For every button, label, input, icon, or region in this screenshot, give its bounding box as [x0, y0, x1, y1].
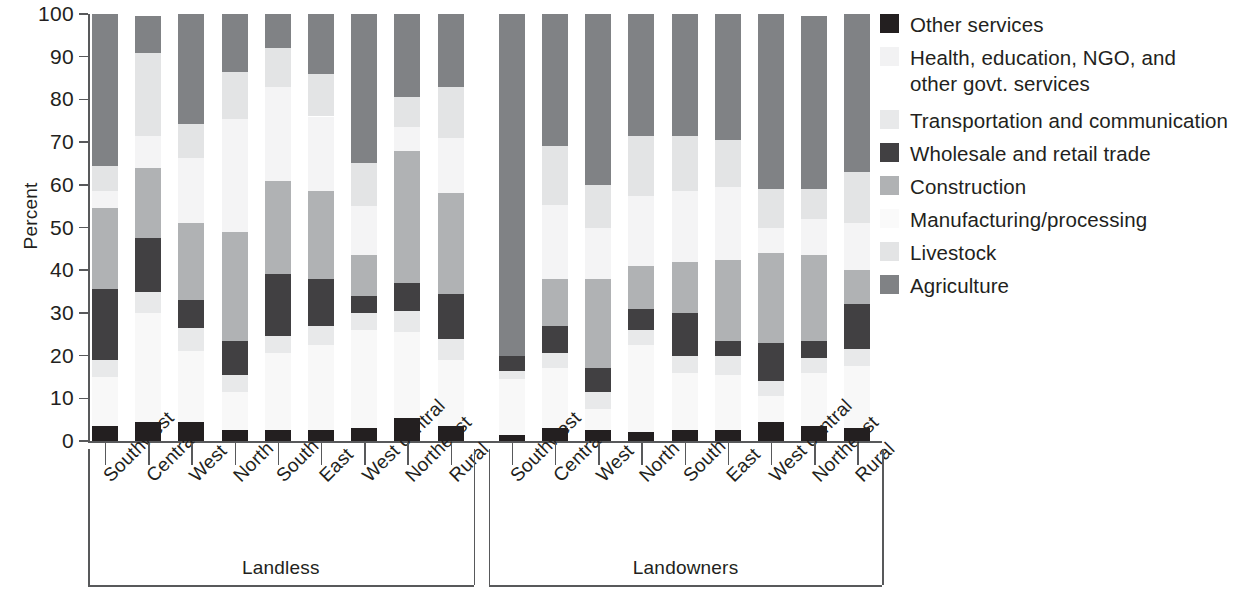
bar-segment[interactable] — [178, 223, 204, 300]
bar-column[interactable] — [351, 14, 377, 441]
bar-segment[interactable] — [628, 266, 654, 309]
bar-segment[interactable] — [178, 300, 204, 328]
bar-segment[interactable] — [715, 14, 741, 140]
bar-segment[interactable] — [178, 158, 204, 223]
bar-column[interactable] — [542, 14, 568, 441]
bar-segment[interactable] — [265, 14, 291, 48]
bar-segment[interactable] — [499, 371, 525, 380]
bar-column[interactable] — [499, 14, 525, 441]
bar-segment[interactable] — [715, 341, 741, 356]
bar-segment[interactable] — [438, 87, 464, 138]
bar-segment[interactable] — [542, 326, 568, 354]
bar-segment[interactable] — [92, 426, 118, 441]
bar-segment[interactable] — [758, 14, 784, 189]
bar-segment[interactable] — [844, 270, 870, 304]
bar-segment[interactable] — [628, 136, 654, 196]
bar-segment[interactable] — [628, 14, 654, 136]
bar-segment[interactable] — [542, 353, 568, 368]
bar-segment[interactable] — [585, 368, 611, 391]
bar-segment[interactable] — [499, 14, 525, 356]
legend-item[interactable]: Agriculture — [880, 273, 1009, 299]
bar-column[interactable] — [222, 14, 248, 441]
bar-segment[interactable] — [715, 375, 741, 431]
bar-segment[interactable] — [542, 14, 568, 146]
bar-segment[interactable] — [801, 358, 827, 373]
bar-segment[interactable] — [135, 313, 161, 422]
legend-item[interactable]: Construction — [880, 174, 1026, 200]
bar-segment[interactable] — [394, 151, 420, 283]
bar-column[interactable] — [585, 14, 611, 441]
bar-segment[interactable] — [135, 238, 161, 291]
bar-segment[interactable] — [178, 124, 204, 158]
bar-segment[interactable] — [265, 181, 291, 275]
bar-segment[interactable] — [394, 332, 420, 417]
bar-segment[interactable] — [585, 14, 611, 185]
bar-segment[interactable] — [628, 196, 654, 266]
bar-segment[interactable] — [758, 422, 784, 441]
bar-segment[interactable] — [715, 140, 741, 187]
bar-column[interactable] — [265, 14, 291, 441]
legend-item[interactable]: Health, education, NGO, and other govt. … — [880, 45, 1176, 97]
bar-segment[interactable] — [801, 255, 827, 340]
bar-segment[interactable] — [222, 119, 248, 232]
bar-segment[interactable] — [178, 351, 204, 421]
bar-segment[interactable] — [715, 356, 741, 375]
bar-segment[interactable] — [542, 146, 568, 206]
bar-column[interactable] — [308, 14, 334, 441]
bar-segment[interactable] — [222, 430, 248, 441]
bar-segment[interactable] — [308, 191, 334, 279]
bar-segment[interactable] — [222, 341, 248, 375]
bar-segment[interactable] — [801, 189, 827, 219]
bar-segment[interactable] — [844, 304, 870, 349]
bar-segment[interactable] — [585, 228, 611, 279]
bar-segment[interactable] — [222, 392, 248, 430]
bar-segment[interactable] — [672, 262, 698, 313]
bar-segment[interactable] — [672, 136, 698, 192]
bar-segment[interactable] — [438, 14, 464, 87]
bar-segment[interactable] — [585, 409, 611, 430]
legend-item[interactable]: Transportation and communication — [880, 108, 1228, 134]
bar-segment[interactable] — [135, 53, 161, 135]
bar-segment[interactable] — [628, 345, 654, 433]
bar-segment[interactable] — [178, 328, 204, 351]
bar-segment[interactable] — [628, 309, 654, 330]
bar-segment[interactable] — [844, 172, 870, 223]
bar-segment[interactable] — [801, 341, 827, 358]
bar-segment[interactable] — [351, 255, 377, 296]
bar-segment[interactable] — [265, 353, 291, 430]
bar-segment[interactable] — [135, 16, 161, 53]
bar-segment[interactable] — [222, 375, 248, 392]
bar-segment[interactable] — [499, 379, 525, 435]
bar-column[interactable] — [672, 14, 698, 441]
bar-segment[interactable] — [715, 187, 741, 260]
bar-segment[interactable] — [542, 205, 568, 278]
bar-segment[interactable] — [628, 432, 654, 441]
bar-segment[interactable] — [672, 373, 698, 431]
bar-segment[interactable] — [92, 289, 118, 359]
bar-segment[interactable] — [178, 14, 204, 124]
bar-column[interactable] — [135, 14, 161, 441]
bar-segment[interactable] — [308, 279, 334, 326]
legend-item[interactable]: Other services — [880, 12, 1044, 38]
bar-segment[interactable] — [92, 208, 118, 289]
bar-segment[interactable] — [351, 296, 377, 313]
bar-segment[interactable] — [542, 279, 568, 326]
bar-segment[interactable] — [394, 14, 420, 97]
bar-segment[interactable] — [672, 356, 698, 373]
bar-column[interactable] — [178, 14, 204, 441]
bar-column[interactable] — [715, 14, 741, 441]
bar-segment[interactable] — [351, 206, 377, 255]
bar-segment[interactable] — [758, 228, 784, 254]
bar-segment[interactable] — [758, 396, 784, 422]
bar-segment[interactable] — [308, 117, 334, 192]
bar-segment[interactable] — [672, 14, 698, 136]
bar-segment[interactable] — [92, 166, 118, 192]
bar-segment[interactable] — [394, 127, 420, 150]
bar-segment[interactable] — [394, 97, 420, 127]
legend-item[interactable]: Wholesale and retail trade — [880, 141, 1151, 167]
bar-segment[interactable] — [758, 381, 784, 396]
bar-segment[interactable] — [135, 136, 161, 168]
bar-segment[interactable] — [801, 219, 827, 255]
bar-segment[interactable] — [844, 14, 870, 172]
bar-column[interactable] — [844, 14, 870, 441]
